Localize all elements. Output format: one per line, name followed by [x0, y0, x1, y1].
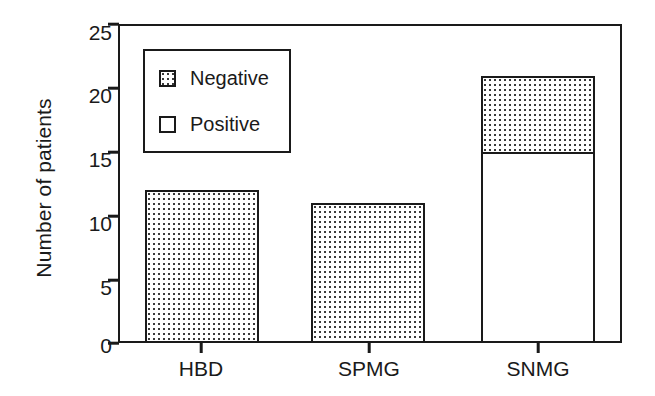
bar-chart: Number of patients 25 20 15 10 5 0 HBD S… — [0, 0, 655, 396]
legend-label-negative: Negative — [190, 68, 269, 88]
bar-snmg-negative — [481, 76, 595, 154]
legend-swatch-positive-icon — [159, 116, 176, 133]
legend: Negative Positive — [143, 49, 291, 153]
x-tick-label-hbd: HBD — [121, 357, 281, 381]
y-tick-label-25: 25 — [52, 22, 112, 43]
legend-label-positive: Positive — [190, 114, 260, 134]
bar-spmg-negative — [311, 203, 425, 343]
legend-swatch-negative-icon — [159, 70, 176, 87]
x-tick-label-spmg: SPMG — [289, 357, 449, 381]
legend-item-negative: Negative — [159, 67, 269, 89]
y-tick-label-5: 5 — [52, 277, 112, 298]
x-tick-mark-hbd — [200, 343, 203, 353]
x-tick-label-snmg: SNMG — [458, 357, 618, 381]
y-tick-label-0: 0 — [52, 335, 112, 356]
x-tick-mark-snmg — [537, 343, 540, 353]
bar-snmg-positive — [481, 152, 595, 343]
bar-hbd-negative — [145, 190, 259, 343]
y-tick-label-10: 10 — [52, 213, 112, 234]
y-tick-label-20: 20 — [52, 85, 112, 106]
legend-item-positive: Positive — [159, 113, 260, 135]
x-tick-mark-spmg — [368, 343, 371, 353]
y-tick-label-15: 15 — [52, 149, 112, 170]
